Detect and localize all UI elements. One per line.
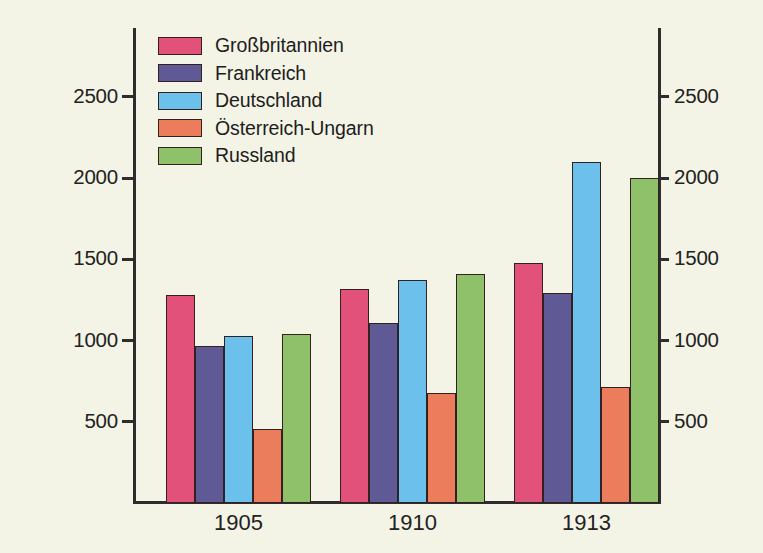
bar — [166, 295, 195, 503]
bar — [253, 429, 282, 503]
x-axis-label: 1905 — [179, 510, 299, 536]
legend-item: Frankreich — [158, 61, 374, 87]
y-axis-label-right: 2500 — [674, 84, 763, 108]
bar — [195, 346, 224, 503]
legend-item-label: Österreich-Ungarn — [215, 117, 374, 140]
y-axis-tick-left — [122, 177, 133, 180]
legend-item-label: Großbritannien — [215, 34, 344, 57]
legend-item: Österreich-Ungarn — [158, 116, 374, 142]
y-axis-tick-right — [658, 177, 669, 180]
bar — [340, 289, 369, 504]
y-axis-tick-right — [658, 420, 669, 423]
y-axis-label-right: 1000 — [674, 328, 763, 352]
x-axis-label: 1910 — [353, 510, 473, 536]
bar — [572, 162, 601, 503]
bar-chart-figure: 50050010001000150015002000200025002500 1… — [0, 0, 763, 553]
y-axis-tick-right — [658, 95, 669, 98]
y-axis-tick-left — [122, 258, 133, 261]
legend-item: Deutschland — [158, 88, 374, 114]
bar — [369, 323, 398, 503]
legend-item: Russland — [158, 143, 374, 169]
y-axis-tick-left — [122, 420, 133, 423]
y-axis-tick-right — [658, 258, 669, 261]
y-axis-label-right: 2000 — [674, 165, 763, 189]
legend-swatch-icon — [158, 119, 202, 137]
y-axis-label-right: 500 — [674, 409, 763, 433]
y-axis-label-left: 1500 — [40, 246, 118, 270]
bar — [543, 293, 572, 503]
y-axis-label-right: 1500 — [674, 246, 763, 270]
y-axis-label-left: 1000 — [40, 328, 118, 352]
y-axis-tick-right — [658, 339, 669, 342]
chart-legend: GroßbritannienFrankreichDeutschlandÖster… — [158, 33, 374, 171]
legend-item-label: Russland — [215, 144, 296, 167]
legend-swatch-icon — [158, 147, 202, 165]
legend-swatch-icon — [158, 37, 202, 55]
y-axis-label-left: 2000 — [40, 165, 118, 189]
bar — [601, 387, 630, 503]
bar — [427, 393, 456, 504]
legend-swatch-icon — [158, 64, 202, 82]
legend-swatch-icon — [158, 92, 202, 110]
x-axis-label: 1913 — [527, 510, 647, 536]
bar — [282, 334, 311, 503]
legend-item-label: Frankreich — [215, 62, 306, 85]
bar — [456, 274, 485, 503]
legend-item: Großbritannien — [158, 33, 374, 59]
bar — [514, 263, 543, 504]
y-axis-tick-left — [122, 339, 133, 342]
legend-item-label: Deutschland — [215, 89, 322, 112]
bar — [398, 280, 427, 503]
y-axis-label-left: 2500 — [40, 84, 118, 108]
y-axis-tick-left — [122, 95, 133, 98]
bar — [630, 178, 659, 503]
bar — [224, 336, 253, 503]
y-axis-label-left: 500 — [40, 409, 118, 433]
